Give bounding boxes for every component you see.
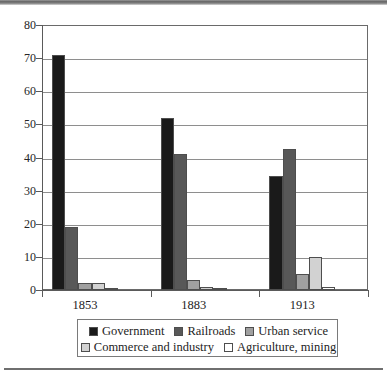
bar (65, 227, 78, 290)
bar (92, 283, 105, 290)
y-axis-tick-label: 30 (8, 185, 36, 197)
legend-label: Government (102, 325, 164, 338)
legend-item: Urban service (245, 325, 328, 338)
y-axis-tick-mark (36, 91, 42, 92)
x-axis-tick-label: 1883 (159, 298, 229, 312)
bar (174, 154, 187, 290)
bar (161, 118, 174, 290)
page-horizontal-rule (4, 368, 383, 370)
y-axis-tick-mark (36, 257, 42, 258)
bar (213, 288, 226, 290)
legend-item: Railroads (174, 325, 235, 338)
y-axis-tick-mark (36, 25, 42, 26)
legend-label: Agriculture, mining (237, 341, 336, 354)
x-axis-tick-mark (259, 291, 260, 297)
legend-label: Urban service (258, 325, 328, 338)
legend-swatch-icon (245, 327, 254, 336)
y-axis-tick-mark (36, 224, 42, 225)
y-axis-tick-mark (36, 290, 42, 291)
x-axis-tick-mark (368, 291, 369, 297)
bars-layer (42, 25, 368, 290)
y-axis-tick-mark (36, 58, 42, 59)
y-axis-tick-labels: 01020304050607080 (0, 0, 36, 384)
legend-label: Commerce and industry (94, 341, 214, 354)
x-axis-tick-label: 1913 (267, 298, 337, 312)
bar (296, 274, 309, 290)
y-axis-tick-mark (36, 158, 42, 159)
y-axis-tick-label: 80 (8, 19, 36, 31)
bar (105, 288, 118, 290)
x-axis-line (42, 290, 369, 291)
y-axis-tick-mark (36, 124, 42, 125)
bar (309, 257, 322, 290)
y-axis-tick-label: 10 (8, 251, 36, 263)
bar (269, 176, 282, 290)
chart-legend: GovernmentRailroadsUrban service Commerc… (77, 319, 338, 357)
y-axis-tick-label: 50 (8, 118, 36, 130)
y-axis-tick-label: 70 (8, 52, 36, 64)
x-axis-tick-label: 1853 (50, 298, 120, 312)
bar (78, 283, 91, 290)
legend-label: Railroads (187, 325, 235, 338)
legend-swatch-icon (81, 343, 90, 352)
bar (187, 280, 200, 290)
legend-item: Commerce and industry (81, 341, 214, 354)
bar-chart-figure: 01020304050607080 185318831913 Governmen… (0, 0, 387, 384)
legend-swatch-icon (174, 327, 183, 336)
bar (322, 287, 335, 290)
legend-swatch-icon (224, 343, 233, 352)
y-axis-tick-label: 60 (8, 85, 36, 97)
bar (52, 55, 65, 290)
legend-item: Government (89, 325, 164, 338)
legend-item: Agriculture, mining (224, 341, 336, 354)
x-axis-tick-mark (42, 291, 43, 297)
legend-row: Commerce and industryAgriculture, mining (78, 338, 339, 356)
y-axis-tick-label: 0 (8, 284, 36, 296)
y-axis-tick-label: 20 (8, 218, 36, 230)
y-axis-tick-mark (36, 191, 42, 192)
bar (200, 287, 213, 290)
x-axis-tick-mark (151, 291, 152, 297)
y-axis-tick-label: 40 (8, 152, 36, 164)
bar (283, 149, 296, 290)
legend-swatch-icon (89, 327, 98, 336)
